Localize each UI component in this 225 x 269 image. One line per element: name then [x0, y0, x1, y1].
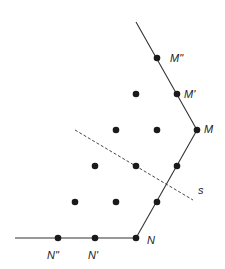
point-N1 — [92, 235, 99, 242]
point — [113, 199, 120, 206]
lattice-diagram: M" M' M s N N' N" — [0, 0, 225, 269]
point — [154, 127, 161, 134]
point — [72, 199, 79, 206]
label-M: M — [204, 123, 214, 135]
label-N1: N' — [88, 249, 99, 261]
point — [92, 163, 99, 170]
label-s: s — [198, 184, 204, 196]
label-M1: M' — [184, 88, 196, 100]
label-M2: M" — [170, 52, 184, 64]
point-N — [133, 235, 140, 242]
point — [133, 91, 140, 98]
label-N: N — [147, 234, 155, 246]
lattice-points — [55, 55, 201, 242]
point-M — [194, 127, 201, 134]
point-M1 — [174, 91, 181, 98]
point — [133, 163, 140, 170]
point — [154, 199, 161, 206]
point-N2 — [55, 235, 62, 242]
point — [113, 127, 120, 134]
label-N2: N" — [47, 249, 60, 261]
point-M2 — [154, 55, 161, 62]
point — [174, 163, 181, 170]
